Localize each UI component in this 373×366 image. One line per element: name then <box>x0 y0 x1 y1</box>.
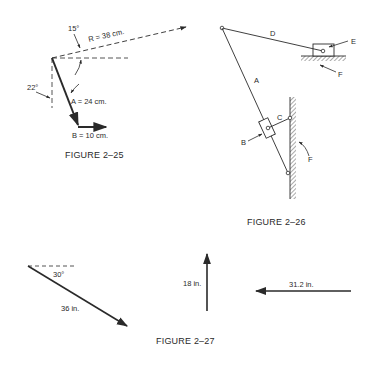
vector-r-label: R = 38 cm. <box>87 27 125 44</box>
figure-2-27: 30° 36 in. 18 in. 31.2 in. FIGURE 2–27 <box>28 254 351 346</box>
figure-2-25-caption: FIGURE 2–25 <box>65 150 124 160</box>
vector-18-label: 18 in. <box>183 279 201 288</box>
link-a <box>222 28 288 173</box>
label-f-wall: F <box>308 155 313 164</box>
angle-30-label: 30° <box>53 270 64 279</box>
figure-2-27-caption: FIGURE 2–27 <box>156 336 215 346</box>
angle-22-pointer-arrow-icon <box>36 92 50 98</box>
angle-arc-pointer-icon <box>75 60 81 75</box>
f-ground-pointer-arrow-icon <box>320 65 336 72</box>
pin-e <box>321 49 325 53</box>
label-d: D <box>270 29 276 38</box>
figure-2-26: E F D A C B F FIGURE 2–26 <box>220 26 356 227</box>
label-f-ground: F <box>338 70 343 79</box>
vector-a-label: A = 24 cm. <box>71 97 107 106</box>
figure-2-26-caption: FIGURE 2–26 <box>247 217 306 227</box>
diagram-canvas: 15° R = 38 cm. 22° A = 24 cm. B = 10 cm.… <box>0 0 373 366</box>
vector-a-line <box>52 58 78 125</box>
b-pointer-arrow-icon <box>248 134 262 141</box>
f-wall-pointer-arrow-icon <box>299 142 309 156</box>
angle-15-pointer-arrow-icon <box>74 34 80 48</box>
pin-a-wall <box>286 171 290 175</box>
label-e: E <box>351 37 356 46</box>
label-a: A <box>254 76 259 85</box>
vector-36-label: 36 in. <box>61 304 79 313</box>
wall-hatch <box>290 97 296 199</box>
label-b: B <box>241 138 246 147</box>
vector-b-label: B = 10 cm. <box>72 131 108 140</box>
pin-c-wall <box>288 116 292 120</box>
label-c: C <box>277 113 283 122</box>
vector-36-line <box>28 266 127 326</box>
pin-b <box>266 126 270 130</box>
vector-31-label: 31.2 in. <box>289 280 314 289</box>
angle-15-label: 15° <box>68 24 79 33</box>
ground-hatch <box>301 56 346 61</box>
figure-2-25: 15° R = 38 cm. 22° A = 24 cm. B = 10 cm.… <box>27 24 186 160</box>
angle-arc-pointer-icon-2 <box>71 84 79 93</box>
angle-22-label: 22° <box>27 83 38 92</box>
